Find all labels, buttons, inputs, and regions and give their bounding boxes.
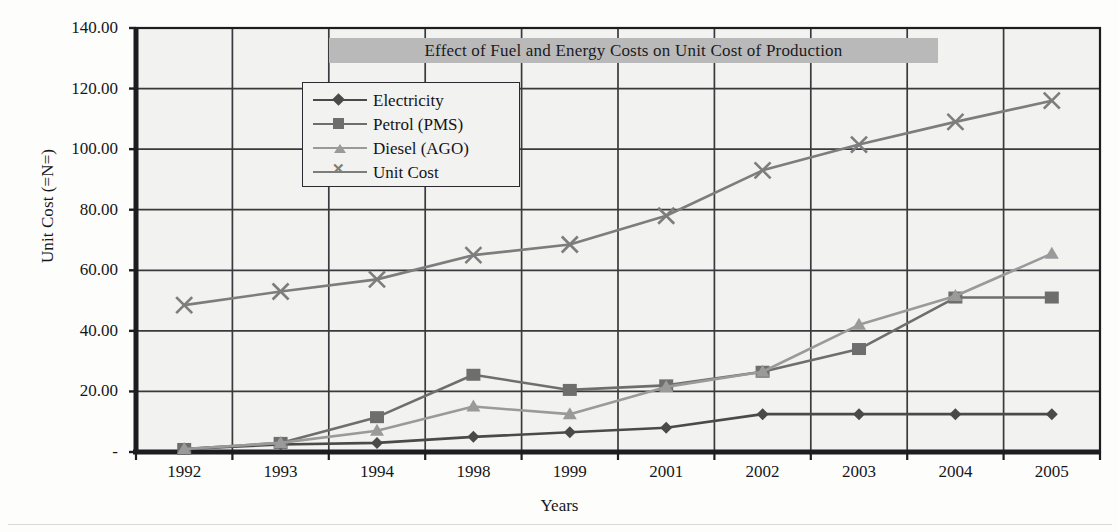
legend-label: Electricity	[373, 92, 444, 109]
x-axis-tick-label: 2004	[915, 462, 995, 482]
chart-canvas	[0, 0, 1119, 532]
y-axis-tick-label: -	[22, 443, 118, 460]
y-axis-tick-label: 40.00	[22, 322, 118, 339]
x-axis-tick-label: 1998	[433, 462, 513, 482]
triangle-icon	[334, 144, 346, 153]
legend-item[interactable]: Diesel (AGO)	[303, 136, 519, 160]
chart-title-text: Effect of Fuel and Energy Costs on Unit …	[425, 41, 843, 61]
x-axis-tick-label: 1999	[530, 462, 610, 482]
marker-square	[370, 411, 384, 423]
x-axis-tick-label: 2003	[819, 462, 899, 482]
y-axis-tick-label: 140.00	[22, 19, 118, 36]
square-icon	[333, 118, 344, 129]
x-mark-icon: ✕	[332, 164, 345, 174]
diamond-icon	[332, 93, 345, 106]
chart-title: Effect of Fuel and Energy Costs on Unit …	[329, 38, 938, 63]
legend-item[interactable]: Petrol (PMS)	[303, 112, 519, 136]
chart-figure: Unit Cost (=N=) Years 140.00120.00100.00…	[0, 0, 1119, 532]
x-axis-tick-label: 2002	[723, 462, 803, 482]
marker-square	[1045, 292, 1059, 304]
x-axis-tick-label: 2005	[1012, 462, 1092, 482]
page-bottom-rule	[8, 524, 1112, 525]
x-axis-tick-label: 2001	[626, 462, 706, 482]
y-axis-tick-label: 60.00	[22, 261, 118, 278]
marker-square	[852, 343, 866, 355]
legend-label: Petrol (PMS)	[373, 116, 463, 133]
legend-label: Unit Cost	[373, 164, 439, 181]
y-axis-tick-label: 20.00	[22, 382, 118, 399]
y-axis-tick-label: 100.00	[22, 140, 118, 157]
marker-square	[466, 369, 480, 381]
legend-item[interactable]: ✕Unit Cost	[303, 160, 519, 184]
x-axis-title: Years	[0, 496, 1119, 516]
legend-key-diamond-icon	[313, 92, 367, 108]
y-axis-tick-label: 120.00	[22, 80, 118, 97]
legend-key-square-icon	[313, 116, 367, 132]
x-axis-tick-label: 1992	[144, 462, 224, 482]
legend-key-x-icon: ✕	[313, 164, 367, 180]
legend-item[interactable]: Electricity	[303, 88, 519, 112]
y-axis-tick-label: 80.00	[22, 201, 118, 218]
x-axis-tick-label: 1994	[337, 462, 417, 482]
x-axis-tick-label: 1993	[241, 462, 321, 482]
chart-plot-area	[0, 0, 1119, 532]
marker-square	[563, 384, 577, 396]
legend-key-triangle-icon	[313, 140, 367, 156]
legend-label: Diesel (AGO)	[373, 140, 469, 157]
chart-legend: ElectricityPetrol (PMS)Diesel (AGO)✕Unit…	[302, 82, 520, 187]
